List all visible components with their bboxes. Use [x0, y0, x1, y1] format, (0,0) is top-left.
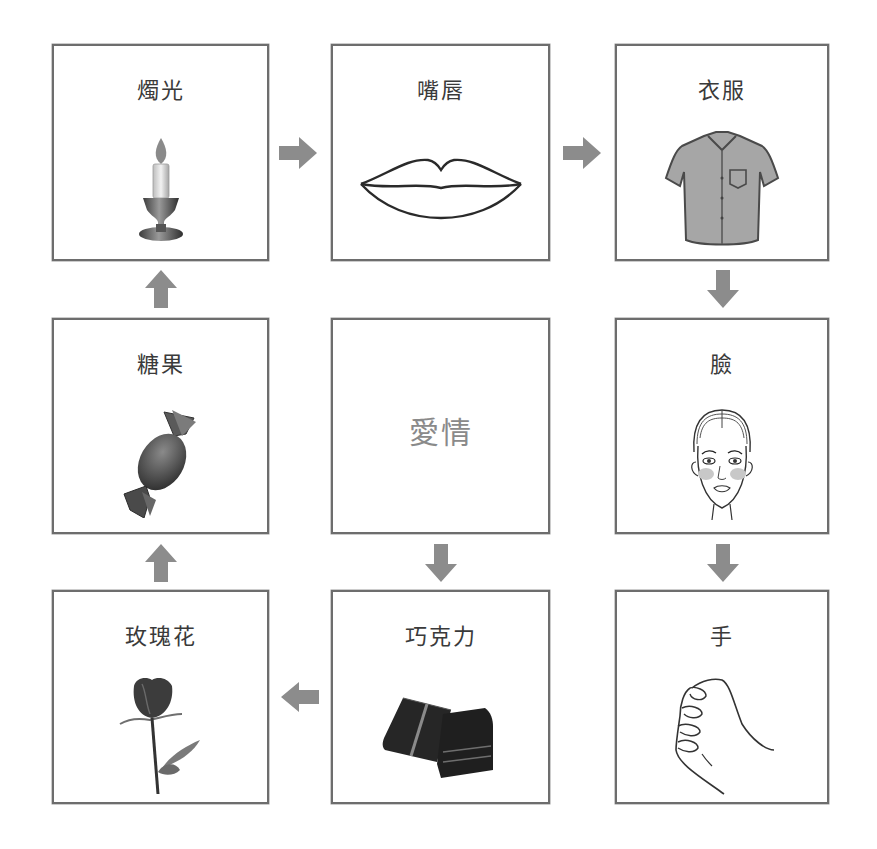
candle-icon: [133, 134, 189, 248]
cell-candle: 燭光: [52, 44, 269, 261]
cell-label: 玫瑰花: [54, 618, 267, 650]
cell-label: 手: [617, 618, 827, 650]
arrow-left-icon: [281, 682, 319, 712]
lips-icon: [358, 156, 524, 226]
face-icon: [682, 404, 762, 528]
cell-label: 嘴唇: [333, 72, 548, 104]
arrow-right-icon: [563, 137, 601, 169]
cell-rose: 玫瑰花: [52, 590, 269, 804]
cell-label: 燭光: [54, 72, 267, 104]
cell-chocolate: 巧克力: [331, 590, 550, 804]
shirt-icon: [664, 130, 780, 252]
arrow-up-icon: [145, 544, 177, 582]
arrow-down-icon: [707, 544, 739, 582]
cell-lips: 嘴唇: [331, 44, 550, 261]
cell-label: 巧克力: [333, 618, 548, 650]
cell-label: 衣服: [617, 72, 827, 104]
arrow-down-icon: [425, 544, 457, 582]
center-label: 愛情: [333, 408, 548, 452]
arrow-right-icon: [279, 137, 317, 169]
arrow-up-icon: [145, 270, 177, 308]
cell-face: 臉: [615, 318, 829, 534]
cell-candy: 糖果: [52, 318, 269, 534]
cell-label: 臉: [617, 346, 827, 378]
hand-icon: [662, 674, 782, 802]
rose-icon: [116, 676, 206, 800]
candy-icon: [116, 406, 206, 522]
cell-hand: 手: [615, 590, 829, 804]
chocolate-icon: [381, 692, 501, 786]
cell-clothes: 衣服: [615, 44, 829, 261]
cell-center-love: 愛情: [331, 318, 550, 534]
arrow-down-icon: [707, 270, 739, 308]
cell-label: 糖果: [54, 346, 267, 378]
